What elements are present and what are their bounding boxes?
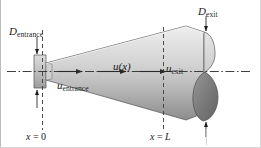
label-d-exit-symbol: D [198, 5, 206, 17]
label-x-equals-zero-operator: = [33, 131, 39, 142]
label-d-entrance-symbol: D [9, 25, 17, 37]
label-x-equals-l-operator: = [157, 131, 163, 142]
label-u-of-x-argument: (x) [119, 60, 131, 72]
label-u-of-x: u(x) [113, 57, 131, 73]
label-x-equals-l-variable: x [150, 131, 154, 142]
nozzle-diagram-figure: Dentrance Dexit u(x) uexit uentrance x =… [0, 0, 261, 148]
label-x-equals-zero: x = 0 [26, 132, 46, 142]
label-u-entrance-subscript: entrance [63, 84, 89, 93]
label-d-entrance-subscript: entrance [17, 30, 43, 39]
label-d-exit: Dexit [198, 2, 218, 18]
label-x-equals-l: x = L [150, 132, 171, 142]
label-x-equals-zero-value: 0 [41, 131, 46, 142]
label-u-exit-subscript: exit [172, 67, 184, 76]
label-u-entrance: uentrance [57, 76, 89, 92]
label-u-exit: uexit [166, 59, 183, 75]
label-d-exit-subscript: exit [206, 10, 218, 19]
nozzle-body [34, 26, 218, 121]
label-d-entrance: Dentrance [9, 22, 43, 38]
label-x-equals-l-value: L [165, 131, 171, 142]
label-x-equals-zero-variable: x [26, 131, 30, 142]
